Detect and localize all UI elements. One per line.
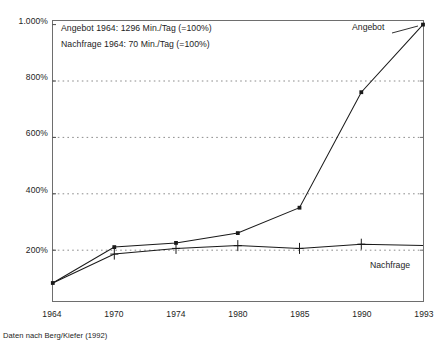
y-tick-label-800: 800% — [2, 72, 48, 82]
y-tick-label-1000: 1.000% — [2, 16, 48, 26]
x-tick-label-1985: 1985 — [280, 309, 320, 319]
plot-frame — [53, 21, 424, 302]
y-tick-label-600: 600% — [2, 128, 48, 138]
y-tick-label-400: 400% — [2, 185, 48, 195]
marker-angebot-1993 — [421, 23, 425, 27]
series-label-angebot: Angebot — [352, 22, 384, 32]
series-label-nachfrage: Nachfrage — [370, 260, 410, 270]
marker-angebot-1980 — [236, 231, 240, 235]
x-tick-label-1974: 1974 — [156, 309, 196, 319]
x-tick-label-1980: 1980 — [218, 309, 258, 319]
y-tick-label-200: 200% — [2, 245, 48, 255]
line-chart-canvas — [0, 0, 438, 349]
x-tick-label-1964: 1964 — [32, 309, 72, 319]
x-tick-label-1970: 1970 — [94, 309, 134, 319]
source-caption: Daten nach Berg/Kiefer (1992) — [3, 331, 107, 340]
chart-figure: 1.000% 800% 600% 400% 200% 1964 1970 197… — [0, 0, 438, 349]
marker-angebot-1970 — [112, 245, 116, 249]
x-tick-label-1990: 1990 — [342, 309, 382, 319]
annotation-angebot-baseline: Angebot 1964: 1296 Min./Tag (=100%) — [61, 23, 212, 33]
annotation-nachfrage-baseline: Nachfrage 1964: 70 Min./Tag (=100%) — [61, 39, 210, 49]
x-tick-label-1993: 1993 — [404, 309, 438, 319]
marker-angebot-1985 — [298, 206, 302, 210]
marker-angebot-1990 — [359, 90, 363, 94]
